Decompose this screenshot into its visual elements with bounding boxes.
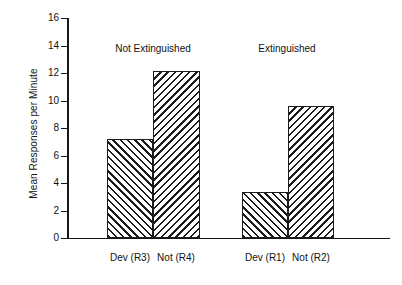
- y-tick-label-2: 2: [33, 206, 59, 216]
- y-tick-label-0: 0: [33, 233, 59, 243]
- y-tick-label-10: 10: [33, 96, 59, 106]
- y-tick-mark-10: [61, 101, 67, 102]
- y-tick-mark-12: [61, 73, 67, 74]
- y-tick-label-4: 4: [33, 178, 59, 188]
- y-axis-title: Mean Responses per Minute: [28, 39, 39, 229]
- bar-dev-r3: [107, 139, 153, 238]
- bar-dev-r1: [242, 192, 288, 237]
- y-tick-label-6: 6: [33, 151, 59, 161]
- y-axis-line: [67, 18, 69, 239]
- y-tick-mark-4: [61, 183, 67, 184]
- y-tick-mark-2: [61, 211, 67, 212]
- y-tick-mark-0: [61, 238, 67, 239]
- bar-not-r4: [153, 71, 201, 237]
- y-tick-mark-16: [61, 18, 67, 19]
- bar-not-r2: [288, 106, 334, 238]
- group-label-not-extinguished: Not Extinguished: [93, 43, 213, 54]
- y-tick-label-14: 14: [33, 41, 59, 51]
- bar-chart-figure: Mean Responses per Minute 16 14 12 10 8 …: [0, 0, 402, 285]
- y-tick-label-8: 8: [33, 123, 59, 133]
- y-tick-mark-14: [61, 46, 67, 47]
- y-tick-label-16: 16: [33, 13, 59, 23]
- group-label-extinguished: Extinguished: [227, 43, 347, 54]
- y-tick-mark-6: [61, 156, 67, 157]
- y-tick-mark-8: [61, 128, 67, 129]
- y-tick-label-12: 12: [33, 68, 59, 78]
- category-label-not-r4: Not (R4): [146, 252, 206, 263]
- x-axis-line: [67, 238, 390, 240]
- category-label-not-r2: Not (R2): [281, 252, 341, 263]
